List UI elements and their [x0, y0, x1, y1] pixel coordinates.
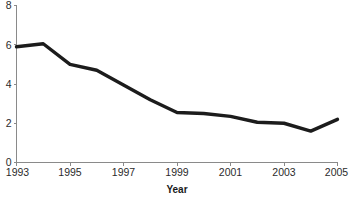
line-chart: 86420 1993199519971999200120032005 Year: [0, 0, 353, 200]
data-line-series: [17, 44, 338, 131]
x-tick-label: 2005: [325, 166, 349, 178]
x-tick-label: 2001: [219, 166, 243, 178]
x-tick-label: 2003: [272, 166, 296, 178]
axes-group: [14, 6, 338, 166]
y-axis-tick-labels: 86420: [6, 0, 12, 168]
x-tick-label: 1995: [58, 166, 82, 178]
y-tick-label: 8: [6, 0, 12, 11]
chart-canvas: 86420 1993199519971999200120032005 Year: [0, 0, 353, 200]
x-axis-tick-labels: 1993199519971999200120032005: [6, 166, 349, 178]
y-tick-label: 6: [6, 39, 12, 51]
axis-lines: [17, 6, 338, 163]
x-tick-label: 1997: [112, 166, 136, 178]
x-axis-title: Year: [166, 184, 187, 195]
x-tick-label: 1999: [165, 166, 189, 178]
x-tick-label: 1993: [6, 166, 30, 178]
y-tick-label: 4: [6, 78, 12, 90]
y-tick-label: 2: [6, 117, 12, 129]
data-series-group: [17, 44, 338, 131]
